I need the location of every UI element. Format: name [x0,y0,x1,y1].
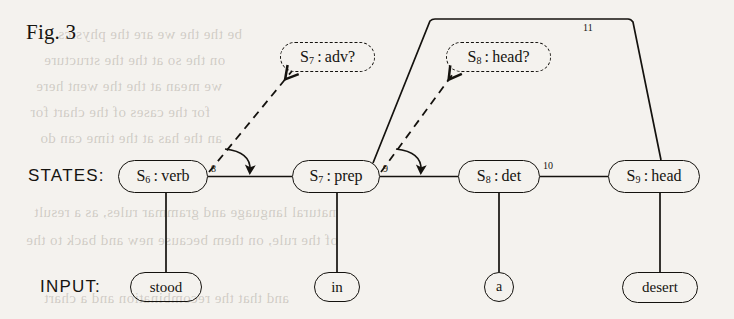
row-label-input: INPUT: [40,277,101,297]
edge-number-10: 10 [543,160,553,171]
state-node-s8-det-label: S8 : det [477,168,521,185]
input-node-in-label: in [331,280,343,295]
span-edge-11 [373,19,661,163]
state-node-s6-verb[interactable]: S6 : verb [118,160,208,193]
dashed-link-s7-to-s8head [381,71,455,172]
state-node-s9-head-label: S9 : head [627,168,682,185]
state-node-s8-det[interactable]: S8 : det [458,160,540,193]
figure-page: be the the we are the physics on the so … [0,0,734,319]
hypothesis-node-s7-adv[interactable]: S7 : adv? [280,42,375,72]
arc-arrow-edge-8 [225,149,250,170]
hypothesis-node-s7-adv-label: S7 : adv? [300,49,355,66]
row-label-states: STATES: [28,166,105,186]
edge-number-8: 8 [211,163,216,174]
edge-number-11: 11 [583,22,593,33]
hypothesis-node-s8-head[interactable]: S8 : head? [446,42,551,72]
state-node-s7-prep[interactable]: S7 : prep [292,160,380,193]
input-node-in[interactable]: in [314,272,360,302]
input-node-desert[interactable]: desert [622,272,698,303]
state-node-s6-verb-label: S6 : verb [136,168,189,185]
input-node-desert-label: desert [642,280,678,295]
dashed-link-s6-to-s7adv [209,71,292,172]
input-node-a-label: a [496,280,502,294]
input-node-stood[interactable]: stood [130,272,202,302]
input-node-a[interactable]: a [484,272,514,302]
arc-arrow-edge-9 [396,149,421,170]
hypothesis-node-s8-head-label: S8 : head? [467,49,529,66]
edge-number-9: 9 [383,163,388,174]
figure-caption: Fig. 3 [26,20,76,45]
input-node-stood-label: stood [150,280,183,295]
state-node-s7-prep-label: S7 : prep [309,168,362,185]
state-node-s9-head[interactable]: S9 : head [608,160,700,193]
